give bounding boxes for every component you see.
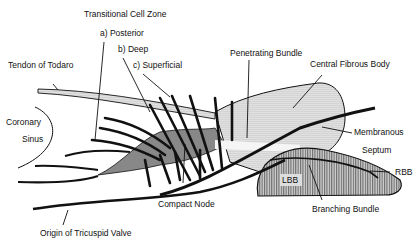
tendon-of-todaro bbox=[38, 89, 215, 119]
label-sinus: Sinus bbox=[22, 135, 43, 144]
label-posterior: a) Posterior bbox=[100, 29, 144, 38]
label-compact-node: Compact Node bbox=[158, 200, 215, 209]
label-deep: b) Deep bbox=[118, 45, 148, 54]
label-septum: Septum bbox=[362, 146, 391, 155]
label-tendon-of-todaro: Tendon of Todaro bbox=[8, 61, 74, 70]
label-central-fibrous-body: Central Fibrous Body bbox=[310, 60, 390, 69]
label-superficial: c) Superficial bbox=[133, 61, 182, 70]
label-coronary: Coronary bbox=[6, 118, 41, 127]
label-rbb: RBB bbox=[395, 168, 412, 177]
label-penetrating-bundle: Penetrating Bundle bbox=[230, 49, 302, 58]
branching-bundle-region bbox=[257, 148, 401, 196]
label-transitional-cell-zone: Transitional Cell Zone bbox=[84, 10, 166, 19]
label-lbb: LBB bbox=[282, 176, 298, 185]
label-membranous: Membranous bbox=[354, 128, 404, 137]
label-branching-bundle: Branching Bundle bbox=[312, 205, 379, 214]
label-origin-of-tricuspid-valve: Origin of Tricuspid Valve bbox=[40, 229, 132, 238]
